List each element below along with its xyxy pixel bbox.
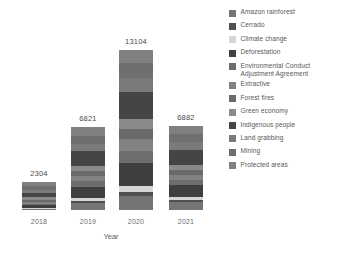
chart-legend: Amazon rainforestCerradoClimate changeDe…	[229, 8, 340, 174]
legend-label: Climate change	[241, 35, 288, 43]
bar-segment	[169, 126, 203, 134]
legend-item[interactable]: Mining	[229, 147, 340, 158]
legend-swatch-icon	[229, 50, 236, 57]
legend-label: Amazon rainforest	[241, 8, 295, 16]
bar-segment	[119, 92, 153, 119]
legend-label: Mining	[241, 147, 261, 155]
legend-swatch-icon	[229, 63, 236, 70]
bar-segment	[71, 127, 105, 136]
legend-item[interactable]: Climate change	[229, 35, 340, 46]
bar-segment	[169, 202, 203, 210]
legend-label: Extractive	[241, 80, 271, 88]
legend-item[interactable]: Amazon rainforest	[229, 8, 340, 19]
bar-segment	[169, 142, 203, 150]
bar-total-label-2020: 13104	[107, 37, 165, 46]
bar-segment	[119, 151, 153, 163]
bar-segment	[71, 136, 105, 144]
bar-stack	[22, 182, 56, 210]
legend-label: Protected areas	[241, 161, 288, 169]
legend-label: Environmental Conduct Adjustment Agreeme…	[241, 62, 311, 78]
legend-swatch-icon	[229, 149, 236, 156]
bar-total-label-2018: 2304	[10, 169, 68, 178]
bar-segment	[71, 203, 105, 210]
legend-swatch-icon	[229, 36, 236, 43]
legend-swatch-icon	[229, 23, 236, 30]
legend-item[interactable]: Indigenous people	[229, 121, 340, 132]
bar-segment	[119, 196, 153, 210]
bar-segment	[119, 163, 153, 186]
legend-swatch-icon	[229, 135, 236, 142]
legend-swatch-icon	[229, 95, 236, 102]
bar-group-2021	[169, 126, 203, 210]
bar-segment	[119, 129, 153, 139]
bar-segment	[71, 151, 105, 165]
bar-segment	[119, 119, 153, 129]
legend-swatch-icon	[229, 109, 236, 116]
legend-item[interactable]: Land grabbing	[229, 134, 340, 145]
bar-total-label-2019: 6821	[59, 114, 117, 123]
bar-stack	[119, 50, 153, 210]
bar-segment	[22, 209, 56, 210]
legend-swatch-icon	[229, 162, 236, 169]
bar-stack	[71, 127, 105, 210]
bar-segment	[119, 50, 153, 63]
legend-item[interactable]: Green economy	[229, 107, 340, 118]
legend-label: Forest fires	[241, 94, 275, 102]
plot-area: 230420186821201913104202068822021	[0, 0, 222, 255]
legend-label: Cerrado	[241, 21, 265, 29]
legend-item[interactable]: Deforestation	[229, 48, 340, 59]
bar-group-2019	[71, 127, 105, 210]
legend-item[interactable]: Protected areas	[229, 161, 340, 172]
stacked-bar-chart-figure: 230420186821201913104202068822021 Year A…	[0, 0, 340, 255]
legend-item[interactable]: Cerrado	[229, 21, 340, 32]
x-axis-label: Year	[0, 232, 222, 241]
bar-segment	[71, 144, 105, 152]
legend-item[interactable]: Forest fires	[229, 94, 340, 105]
bar-segment	[119, 139, 153, 151]
legend-item[interactable]: Environmental Conduct Adjustment Agreeme…	[229, 62, 340, 78]
bar-segment	[169, 185, 203, 197]
legend-swatch-icon	[229, 10, 236, 17]
bar-segment	[119, 63, 153, 78]
legend-label: Land grabbing	[241, 134, 284, 142]
legend-label: Deforestation	[241, 48, 281, 56]
bar-segment	[71, 187, 105, 199]
legend-swatch-icon	[229, 122, 236, 129]
legend-swatch-icon	[229, 82, 236, 89]
bar-group-2018	[22, 182, 56, 210]
bar-segment	[119, 78, 153, 92]
bar-total-label-2021: 6882	[157, 113, 215, 122]
legend-item[interactable]: Extractive	[229, 80, 340, 91]
bar-group-2020	[119, 50, 153, 210]
legend-label: Green economy	[241, 107, 289, 115]
x-tick-label-2021: 2021	[157, 218, 215, 225]
bar-stack	[169, 126, 203, 210]
bar-segment	[169, 150, 203, 165]
legend-label: Indigenous people	[241, 121, 296, 129]
bar-segment	[169, 134, 203, 142]
